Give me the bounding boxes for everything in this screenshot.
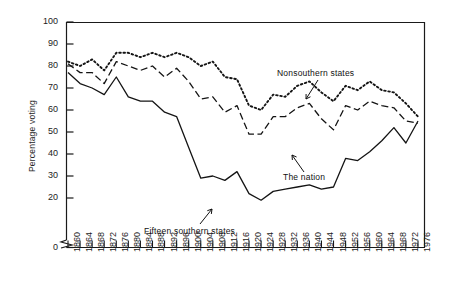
annotation-the-nation: The nation (283, 172, 325, 182)
x-tick-label: 1956 (362, 232, 372, 252)
x-tick-label: 1920 (253, 232, 263, 252)
chart-axes (61, 22, 425, 248)
x-tick-label: 1972 (410, 232, 420, 252)
leader-line-the-nation (292, 155, 304, 172)
voter-turnout-chart: Percentage voting 02030405060708090100 1… (0, 0, 452, 297)
y-tick-label: 90 (34, 38, 58, 48)
x-tick-label: 1924 (265, 232, 275, 252)
series-line-the-nation (68, 62, 418, 135)
y-tick-label: 100 (34, 16, 58, 26)
x-tick-label: 1876 (120, 232, 130, 252)
y-tick-label: 30 (34, 170, 58, 180)
x-tick-label: 1968 (398, 232, 408, 252)
plot-area (0, 0, 452, 297)
y-tick-marks (67, 22, 74, 248)
annotation-nonsouthern-states: Nonsouthern states (277, 68, 354, 78)
x-tick-label: 1964 (386, 232, 396, 252)
x-tick-label: 1960 (374, 232, 384, 252)
y-axis-break-icon (61, 240, 72, 248)
x-tick-label: 1936 (301, 232, 311, 252)
x-tick-label: 1952 (350, 232, 360, 252)
x-tick-label: 1864 (84, 232, 94, 252)
x-tick-label: 1932 (289, 232, 299, 252)
y-tick-label: 20 (34, 192, 58, 202)
y-tick-label: 50 (34, 126, 58, 136)
x-tick-label: 1860 (72, 232, 82, 252)
x-tick-label: 1880 (132, 232, 142, 252)
x-tick-label: 1948 (338, 232, 348, 252)
x-tick-label: 1872 (108, 232, 118, 252)
x-tick-label: 1944 (325, 232, 335, 252)
x-tick-label: 1976 (422, 232, 432, 252)
data-series-group (68, 53, 418, 200)
annotation-leader-lines (200, 80, 318, 224)
x-tick-label: 1940 (313, 232, 323, 252)
y-tick-label: 40 (34, 148, 58, 158)
x-tick-label: 1916 (241, 232, 251, 252)
x-tick-label: 1928 (277, 232, 287, 252)
y-tick-label: 70 (34, 82, 58, 92)
y-tick-label: 0 (34, 242, 58, 252)
x-tick-label: 1868 (96, 232, 106, 252)
y-tick-label: 60 (34, 104, 58, 114)
y-tick-label: 80 (34, 60, 58, 70)
leader-line-southern (200, 209, 212, 224)
annotation-fifteen-southern-states: Fifteen southern states (144, 226, 235, 236)
